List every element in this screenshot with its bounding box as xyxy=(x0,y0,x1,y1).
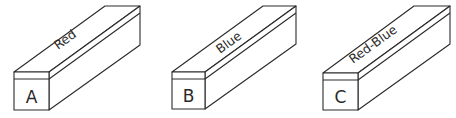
bars-diagram: Red A Blue B Red-Blue C xyxy=(0,0,456,118)
bar-a-front-label: A xyxy=(26,87,38,107)
bar-c-front-label: C xyxy=(335,87,347,107)
bar-c: Red-Blue C xyxy=(323,6,450,110)
bar-b: Blue B xyxy=(172,6,296,109)
bar-b-front-label: B xyxy=(183,86,195,106)
bar-a: Red A xyxy=(14,6,140,110)
